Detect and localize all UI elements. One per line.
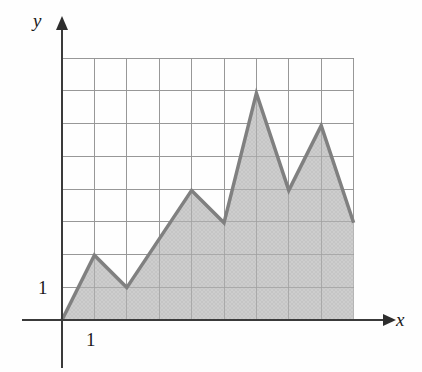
x-axis-tick-label-1: 1: [86, 330, 96, 349]
x-axis-arrowhead-icon: [383, 314, 396, 326]
x-axis-label: x: [396, 310, 404, 329]
y-axis-label: y: [33, 11, 41, 30]
y-axis-tick-label-1: 1: [38, 278, 48, 297]
figure-canvas: y x 1 1: [0, 0, 422, 372]
plot-svg: [0, 0, 422, 372]
y-axis-arrowhead-icon: [56, 16, 68, 30]
